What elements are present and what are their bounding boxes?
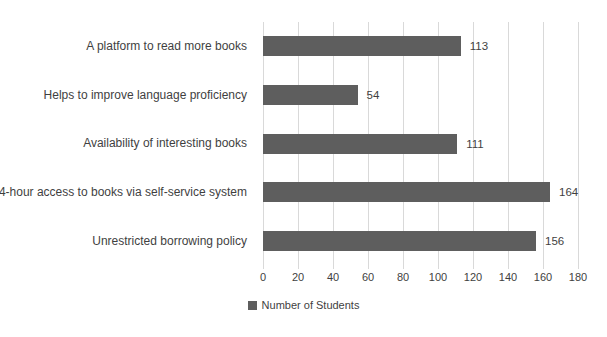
category-label: 24-hour access to books via self-service… xyxy=(0,168,255,217)
x-tick-label: 40 xyxy=(313,271,353,283)
legend-label: Number of Students xyxy=(262,299,360,311)
value-label: 156 xyxy=(545,231,564,251)
x-tick-label: 180 xyxy=(558,271,598,283)
x-tick-label: 140 xyxy=(488,271,528,283)
bar xyxy=(263,231,536,251)
x-tick-label: 0 xyxy=(243,271,283,283)
x-tick-label: 100 xyxy=(418,271,458,283)
x-tick-label: 20 xyxy=(278,271,318,283)
bar xyxy=(263,182,550,202)
y-axis-category-labels: A platform to read more booksHelps to im… xyxy=(0,22,255,265)
plot-area: 11354111164156 xyxy=(263,22,578,265)
x-axis-tick-labels: 020406080100120140160180 xyxy=(0,271,607,285)
value-label: 54 xyxy=(367,85,380,105)
gridline xyxy=(543,22,544,269)
category-label: Helps to improve language proficiency xyxy=(0,71,255,120)
x-tick-label: 160 xyxy=(523,271,563,283)
legend: Number of Students xyxy=(0,299,607,311)
value-label: 111 xyxy=(466,134,483,154)
value-label: 113 xyxy=(470,36,488,56)
bar xyxy=(263,85,358,105)
legend-marker-icon xyxy=(248,301,257,310)
category-label: Availability of interesting books xyxy=(0,119,255,168)
category-label: A platform to read more books xyxy=(0,22,255,71)
value-label: 164 xyxy=(559,182,578,202)
x-tick-label: 60 xyxy=(348,271,388,283)
bar-chart: A platform to read more booksHelps to im… xyxy=(0,0,607,337)
bar xyxy=(263,134,457,154)
x-tick-label: 120 xyxy=(453,271,493,283)
gridline xyxy=(578,22,579,269)
bar xyxy=(263,36,461,56)
category-label: Unrestricted borrowing policy xyxy=(0,216,255,265)
x-tick-label: 80 xyxy=(383,271,423,283)
